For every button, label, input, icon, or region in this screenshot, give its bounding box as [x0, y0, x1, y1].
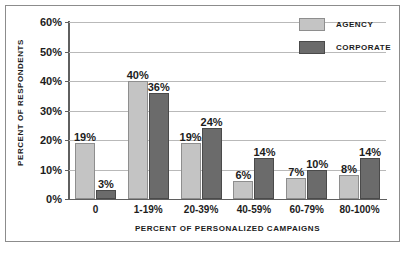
- bar-agency-0[interactable]: 19%: [75, 143, 95, 199]
- y-tick-label: 10%: [40, 164, 62, 176]
- y-tick-mark: [65, 199, 69, 200]
- chart-legend: AGENCY CORPORATE: [299, 16, 391, 62]
- x-axis-title: PERCENT OF PERSONALIZED CAMPAIGNS: [69, 224, 386, 233]
- y-axis-title: PERCENT OF RESPONDENTS: [16, 23, 25, 183]
- bar-group: 6%14%40-59%: [228, 22, 281, 199]
- y-tick-label: 50%: [40, 46, 62, 58]
- x-tick-label: 0: [93, 204, 99, 215]
- bar-agency-40-59%[interactable]: 6%: [233, 181, 253, 199]
- bar-corporate-0[interactable]: 3%: [96, 190, 116, 199]
- y-tick-label: 60%: [40, 16, 62, 28]
- x-tick-label: 80-100%: [340, 204, 380, 215]
- y-tick-label: 30%: [40, 105, 62, 117]
- y-tick-label: 40%: [40, 75, 62, 87]
- bar-agency-60-79%[interactable]: 7%: [286, 178, 306, 199]
- bar-group: 40%36%1-19%: [122, 22, 175, 199]
- legend-label-agency: AGENCY: [336, 20, 373, 29]
- x-tick-label: 60-79%: [290, 204, 324, 215]
- bar-corporate-20-39%[interactable]: 24%: [202, 128, 222, 199]
- bar-corporate-80-100%[interactable]: 14%: [360, 158, 380, 199]
- bar-value-label: 24%: [201, 116, 223, 128]
- bar-value-label: 14%: [253, 146, 275, 158]
- bar-value-label: 19%: [74, 131, 96, 143]
- legend-swatch-agency: [299, 18, 325, 31]
- legend-label-corporate: CORPORATE: [336, 43, 391, 52]
- legend-item-agency: AGENCY: [299, 16, 391, 33]
- x-tick-label: 20-39%: [184, 204, 218, 215]
- y-tick-label: 0%: [46, 193, 62, 205]
- y-tick-label: 20%: [40, 134, 62, 146]
- bar-value-label: 8%: [341, 163, 357, 175]
- bar-agency-20-39%[interactable]: 19%: [181, 143, 201, 199]
- bar-group: 19%3%0: [69, 22, 122, 199]
- bar-corporate-40-59%[interactable]: 14%: [254, 158, 274, 199]
- bar-value-label: 6%: [235, 169, 251, 181]
- bar-value-label: 19%: [180, 131, 202, 143]
- bar-value-label: 10%: [306, 158, 328, 170]
- bar-value-label: 40%: [127, 69, 149, 81]
- bar-value-label: 36%: [148, 81, 170, 93]
- bar-corporate-1-19%[interactable]: 36%: [149, 93, 169, 199]
- bar-agency-80-100%[interactable]: 8%: [339, 175, 359, 199]
- bar-value-label: 7%: [288, 166, 304, 178]
- bar-value-label: 3%: [98, 178, 114, 190]
- chart-frame: PERCENT OF RESPONDENTS 0%10%20%30%40%50%…: [5, 5, 400, 242]
- bar-value-label: 14%: [359, 146, 381, 158]
- x-tick-label: 1-19%: [134, 204, 163, 215]
- bar-agency-1-19%[interactable]: 40%: [128, 81, 148, 199]
- legend-item-corporate: CORPORATE: [299, 39, 391, 56]
- legend-swatch-corporate: [299, 41, 325, 54]
- bar-corporate-60-79%[interactable]: 10%: [307, 170, 327, 200]
- x-tick-label: 40-59%: [237, 204, 271, 215]
- bar-group: 19%24%20-39%: [175, 22, 228, 199]
